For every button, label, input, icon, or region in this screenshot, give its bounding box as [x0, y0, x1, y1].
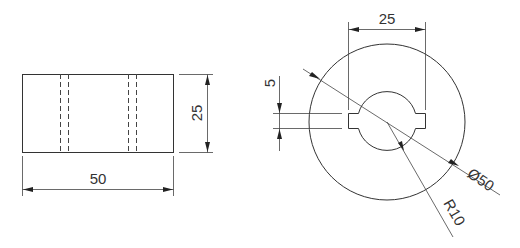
width-dimension-label: 50 — [90, 170, 107, 187]
key-span-label: 25 — [379, 10, 396, 27]
arrow-icon — [205, 75, 210, 85]
diameter-dimension: Ø50 — [303, 69, 500, 195]
front-view-outline — [23, 75, 174, 153]
front-view — [23, 74, 174, 153]
arrow-icon — [277, 129, 282, 139]
key-span-dimension: 25 — [349, 10, 426, 110]
arrow-icon — [277, 103, 282, 113]
radius-label: R10 — [441, 196, 469, 228]
keyed-bore — [349, 92, 426, 151]
width-dimension: 50 — [23, 156, 174, 196]
arrow-icon — [205, 142, 210, 152]
arrow-icon — [23, 187, 33, 192]
key-width-dimension: 5 — [261, 76, 342, 151]
height-dimension-label: 25 — [188, 105, 205, 122]
arrow-icon — [415, 27, 425, 32]
radius-dimension: R10 — [387, 122, 469, 237]
arrow-icon — [349, 27, 359, 32]
arrow-icon — [163, 187, 173, 192]
technical-drawing: 25 50 25 5 Ø50 — [0, 0, 520, 248]
height-dimension: 25 — [179, 75, 213, 153]
arrow-icon — [309, 72, 320, 79]
key-width-label: 5 — [261, 79, 278, 87]
